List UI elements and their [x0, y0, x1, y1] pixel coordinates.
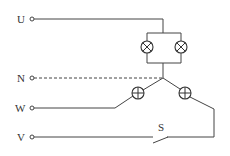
terminal-icons: [30, 17, 34, 139]
terminal-label-v: V: [17, 131, 25, 143]
wire-right-return: [167, 97, 214, 137]
terminal-n-icon: [30, 76, 34, 80]
terminal-v-icon: [30, 135, 34, 139]
terminal-label-u: U: [17, 13, 25, 25]
wire-u: [34, 19, 163, 33]
lamp-plus-icon: [132, 87, 144, 99]
terminal-label-n: N: [17, 72, 25, 84]
lamp-x-icon: [175, 41, 187, 53]
terminal-w-icon: [30, 106, 34, 110]
wye-branches: [143, 78, 180, 90]
lamp-plus-icon: [179, 87, 191, 99]
wire-w: [34, 96, 133, 108]
parallel-lamp-box: [147, 33, 181, 78]
terminal-label-w: W: [15, 102, 26, 114]
lamp-x-icon: [141, 41, 153, 53]
terminal-u-icon: [30, 17, 34, 21]
switch-label: S: [158, 121, 164, 133]
switch-s: [153, 137, 168, 143]
circuit-diagram: U N W V: [0, 0, 230, 156]
